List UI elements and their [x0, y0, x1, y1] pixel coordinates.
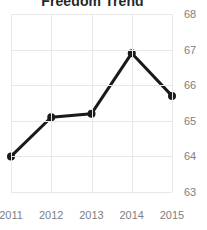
gridline-vertical [172, 14, 173, 192]
y-axis-tick-label: 67 [184, 45, 207, 56]
plot-area [11, 14, 172, 192]
y-axis-tick-label: 64 [184, 151, 207, 162]
y-axis-tick-label: 63 [184, 187, 207, 198]
gridline-vertical [92, 14, 93, 192]
y-axis-tick-label: 66 [184, 80, 207, 91]
chart-title: Freedom Trend [0, 0, 185, 9]
gridline-vertical [11, 14, 12, 192]
gridline-horizontal [11, 192, 172, 193]
y-axis-tick-label: 65 [184, 116, 207, 127]
x-axis-tick-label: 2015 [147, 210, 197, 221]
line-chart: Freedom Trend 68676665646320112012201320… [0, 0, 207, 230]
gridline-vertical [132, 14, 133, 192]
gridline-vertical [51, 14, 52, 192]
y-axis-tick-label: 68 [184, 9, 207, 20]
